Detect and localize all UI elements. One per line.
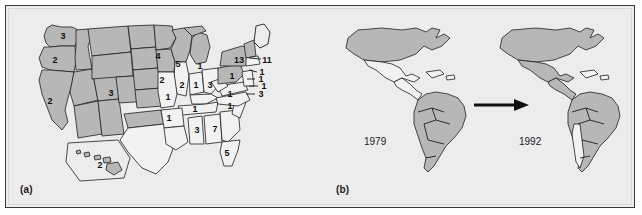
americas-map-1992-svg (494, 20, 624, 180)
island-5 (106, 162, 122, 175)
state-count-in: 1 (193, 80, 198, 90)
state-count-ar: 1 (166, 113, 171, 123)
state-count-pa: 1 (229, 71, 234, 81)
leader-label-ne-3: 3 (258, 89, 263, 99)
state-count-va: 1 (227, 89, 232, 99)
state-count-ca: 2 (47, 96, 52, 106)
state-count-fl: 5 (224, 148, 229, 158)
state-count-al: 7 (212, 124, 217, 134)
state-count-wi: 5 (175, 59, 180, 69)
central-america-1992 (548, 78, 576, 100)
central-america-1979 (394, 78, 422, 100)
north-america-us-1979 (346, 28, 450, 62)
state-count-ia: 2 (159, 75, 164, 85)
state-nj-de-md (242, 70, 254, 86)
state-count-mi: 1 (197, 61, 202, 71)
mexico-1992 (518, 60, 574, 82)
state-count-oh: 3 (207, 80, 212, 90)
panel-b-americas: 1979 1992 (b) (322, 6, 636, 207)
state-count-nc: 1 (227, 101, 232, 111)
state-az (74, 101, 102, 138)
state-mi (190, 32, 210, 64)
panel-a-us-map: 3 2 2 3 4 5 1 2 2 1 3 1 1 1 1 3 7 5 1 1 (6, 6, 322, 207)
state-wy (92, 52, 133, 79)
island-3 (94, 155, 101, 160)
state-count-mn: 4 (155, 51, 160, 61)
state-ma-ct-ri (246, 56, 260, 66)
caribbean-1979 (426, 70, 455, 80)
mexico-1979 (364, 60, 420, 82)
state-count-hi: 2 (97, 160, 102, 170)
americas-map-1979-svg (340, 20, 470, 180)
state-ar (161, 108, 184, 128)
north-america-us-1992 (500, 28, 604, 62)
leader-label-11: 11 (262, 55, 272, 65)
panel-a-label: (a) (20, 184, 33, 195)
state-ne (133, 68, 161, 90)
us-map-svg: 3 2 2 3 4 5 1 2 2 1 3 1 1 1 1 3 7 5 1 1 (6, 6, 322, 209)
island-1 (76, 150, 81, 154)
figure-container: 3 2 2 3 4 5 1 2 2 1 3 1 1 1 1 3 7 5 1 1 (0, 0, 642, 215)
state-count-il: 2 (179, 80, 184, 90)
state-fl (220, 140, 240, 166)
year-label-1992: 1992 (519, 136, 541, 147)
state-me (254, 24, 270, 48)
state-count-ms: 3 (194, 125, 199, 135)
state-vt-nh (244, 40, 256, 58)
south-america-1979 (414, 92, 466, 172)
panel-b-label: (b) (336, 184, 349, 195)
state-count-mo: 1 (165, 92, 170, 102)
state-sd (131, 47, 158, 70)
state-count-tn: 1 (192, 104, 197, 114)
island-4 (103, 157, 111, 163)
state-count-co: 3 (108, 88, 113, 98)
figure-frame: 3 2 2 3 4 5 1 2 2 1 3 1 1 1 1 3 7 5 1 1 (5, 5, 635, 208)
year-label-1979: 1979 (364, 136, 386, 147)
state-mt (88, 26, 131, 56)
state-count-ny: 13 (234, 55, 244, 65)
state-count-wa: 3 (60, 31, 65, 41)
island-2 (84, 152, 90, 157)
state-count-or: 2 (52, 55, 57, 65)
caribbean-1992 (580, 70, 609, 80)
state-nm (98, 99, 124, 136)
state-nd (128, 25, 156, 49)
state-ca (39, 70, 74, 130)
